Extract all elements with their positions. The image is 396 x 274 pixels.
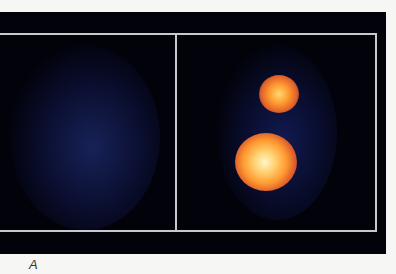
upper-hot-spot <box>259 75 299 113</box>
right-panel-image <box>177 35 375 230</box>
blue-halo <box>217 45 337 220</box>
figure-image <box>0 12 386 254</box>
lower-hot-spot <box>235 133 297 191</box>
figure-label: A <box>29 257 38 272</box>
